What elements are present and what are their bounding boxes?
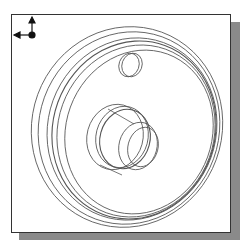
cad-figure	[0, 0, 245, 252]
wireframe-model	[12, 15, 230, 232]
model-viewport[interactable]	[11, 14, 231, 233]
outer-rim	[12, 15, 230, 232]
axis-triad-icon	[12, 15, 42, 41]
hub	[79, 98, 162, 176]
